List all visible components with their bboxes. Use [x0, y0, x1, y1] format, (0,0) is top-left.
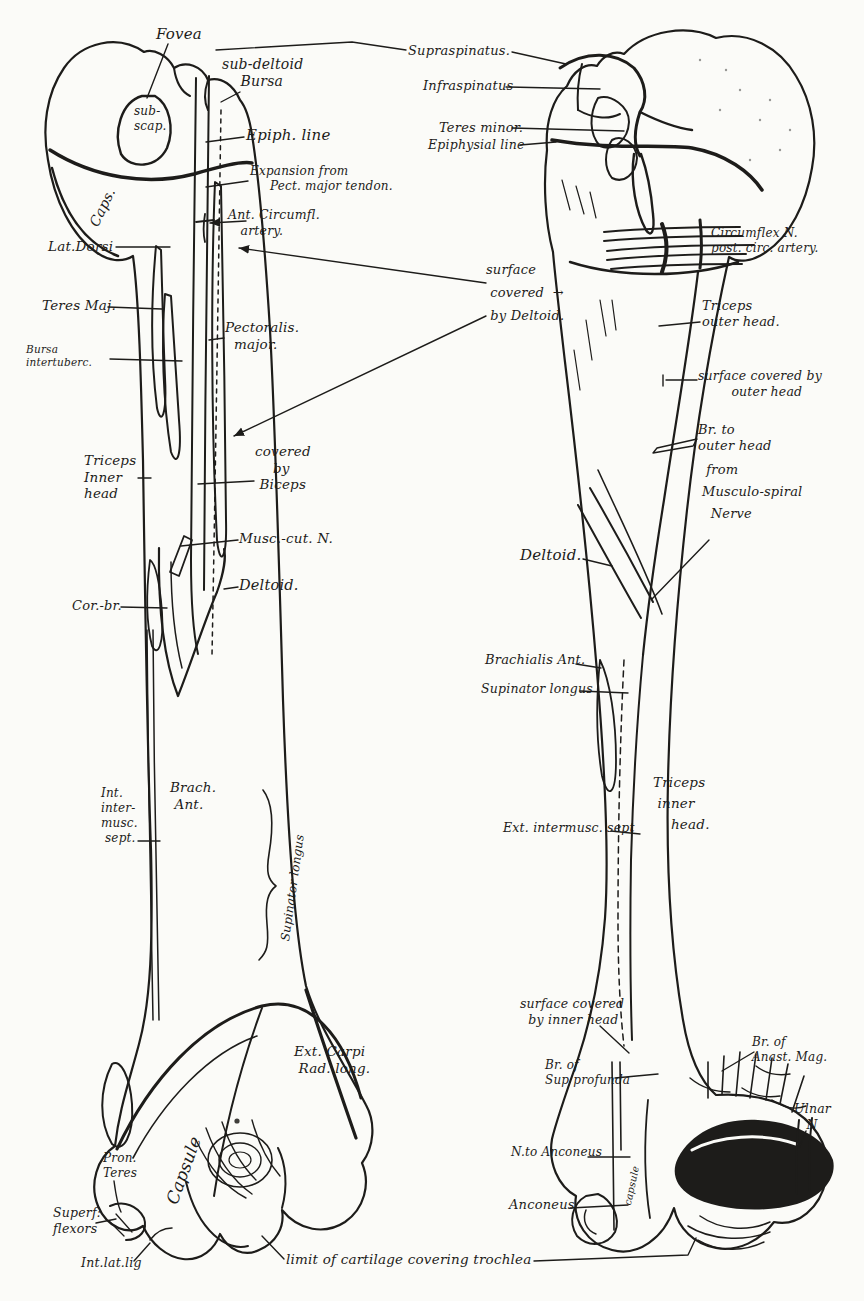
- label-sub-deltoid-bursa: sub-deltoid Bursa: [222, 56, 303, 91]
- label-int-lat-lig: Int.lat.lig: [81, 1255, 142, 1271]
- label-anconeus: Anconeus: [509, 1197, 575, 1213]
- supinator-longus-brace: [259, 790, 276, 960]
- label-ant-circumfl-artery: Ant. Circumfl. artery.: [228, 207, 320, 238]
- diagram-canvas: [0, 0, 864, 1301]
- label-surface-covered-by-inner-head: surface covered by inner head: [520, 996, 624, 1027]
- label-deltoid: Deltoid.: [239, 577, 299, 595]
- label-cor-br: Cor.-br.: [72, 598, 122, 614]
- label-infraspinatus: Infraspinatus: [423, 78, 513, 94]
- anconeus-area: [572, 1194, 617, 1244]
- infraspinatus-facet: [591, 97, 629, 147]
- label-ulnar-n: Ulnar N: [794, 1101, 831, 1132]
- label-lat-dorsi: Lat.Dorsi: [48, 238, 113, 255]
- label-brachialis-ant: Brachialis Ant.: [485, 652, 585, 668]
- label-sub-scap: sub- scap.: [134, 104, 167, 134]
- label-pron-teres: Pron. Teres: [103, 1151, 137, 1181]
- label-br-of-sup-profunda: Br. of Sup profunda: [545, 1058, 630, 1088]
- label-surface-covered-by-outer-head: surface covered by outer head: [698, 368, 822, 399]
- label-musc-cut-n: Musc.-cut. N.: [239, 530, 333, 547]
- label-pectoralis-major: Pectoralis. major.: [225, 319, 299, 352]
- label-epiphysial-line: Epiphysial line: [428, 137, 525, 153]
- label-covered-by-biceps: covered by Biceps: [255, 443, 311, 493]
- label-expansion-from-pect-major-tend: Expansion from Pect. major tendon.: [250, 164, 393, 194]
- label-bursa-intertuberc: Bursa intertuberc.: [26, 343, 92, 369]
- label-triceps-inner-head: Triceps inner head.: [653, 772, 710, 835]
- label-triceps-outer-head: Triceps outer head.: [702, 298, 780, 330]
- label-n-to-anconeus: N.to Anconeus: [511, 1145, 602, 1160]
- label-limit-of-cartilage-covering-tr: limit of cartilage covering trochlea: [286, 1251, 532, 1268]
- label-superf-flexors: Superf: flexors: [53, 1205, 101, 1236]
- label-ext-intermusc-sept: Ext. intermusc. sept: [503, 820, 635, 836]
- label-triceps-inner-head: Triceps Inner head: [84, 452, 136, 502]
- label-brach-ant: Brach. Ant.: [170, 779, 216, 812]
- anatomy-plate: Foveasub-deltoid Bursasub- scap.Epiph. l…: [0, 0, 864, 1301]
- label-from-musculo-spiral-nerve: from Musculo-spiral Nerve: [702, 459, 802, 525]
- label-ext-carpi-rad-long: Ext. Carpi Rad. long.: [294, 1043, 370, 1076]
- epiphyseal-line-anterior: [50, 150, 252, 179]
- label-teres-maj: Teres Maj.: [42, 297, 116, 314]
- bicipital-groove: [191, 78, 198, 654]
- label-epiph-line: Epiph. line: [246, 126, 330, 145]
- epiphyseal-line-posterior: [552, 140, 762, 190]
- label-supinator-longus: Supinator longus: [481, 681, 593, 697]
- label-teres-minor: Teres minor.: [439, 120, 523, 136]
- label-circumflex-n-post-circ-artery: Circumflex N. post. circ. artery.: [711, 226, 819, 256]
- label-br-to-outer-head: Br. to outer head: [698, 422, 772, 454]
- label-br-of-anast-mag: Br. of Anast. Mag.: [752, 1035, 827, 1065]
- label-fovea: Fovea: [156, 25, 202, 44]
- label-surface-covered-by-deltoid: surface covered → by Deltoid.: [486, 259, 564, 327]
- label-deltoid: Deltoid.: [520, 546, 582, 565]
- label-int-inter-musc-sept: Int. inter- musc. sept.: [101, 786, 138, 846]
- label-supraspinatus: Supraspinatus.: [408, 43, 510, 59]
